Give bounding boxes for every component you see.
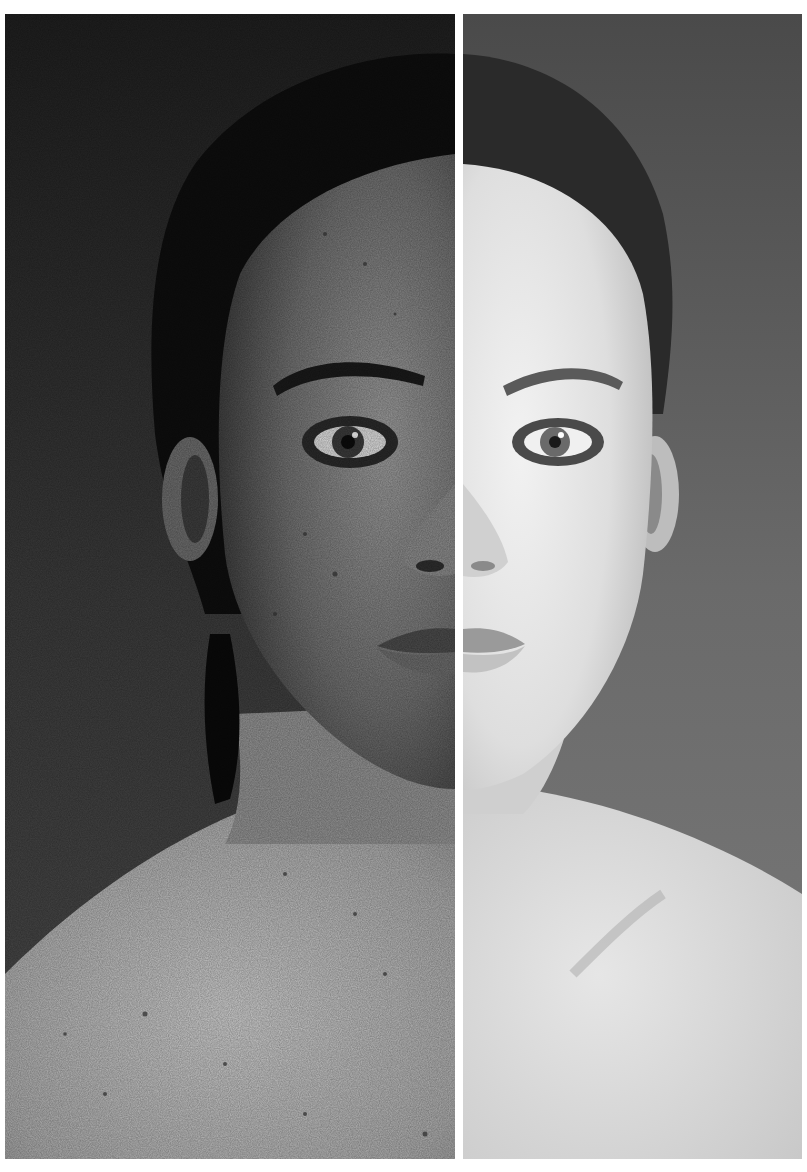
right-panel-smooth-skin	[463, 14, 802, 1159]
split-divider	[455, 14, 463, 1159]
right-portrait-half	[463, 14, 802, 1159]
left-panel-damaged-skin	[5, 14, 455, 1159]
photo-frame	[5, 14, 802, 1159]
left-portrait-half	[5, 14, 455, 1159]
